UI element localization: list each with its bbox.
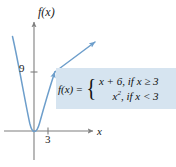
formula-case-1-condition: if x ≥ 3 — [128, 75, 159, 87]
formula-case-1: x + 6, if x ≥ 3 — [99, 74, 159, 89]
formula-cases: x + 6, if x ≥ 3 x2, if x < 3 — [99, 74, 159, 104]
piecewise-function-figure: f(x) x 9 3 f(x) = { x + 6, if x ≥ 3 x2, … — [0, 0, 176, 167]
piecewise-formula: f(x) = { x + 6, if x ≥ 3 x2, if x < 3 — [58, 70, 176, 107]
y-axis-label: f(x) — [38, 6, 55, 18]
formula-case-2-expression-tail: , — [121, 90, 124, 102]
formula-case-1-expression: x + 6, — [99, 75, 125, 87]
formula-case-2-condition: if x < 3 — [126, 90, 158, 102]
x-axis-tick-label-3: 3 — [45, 134, 51, 145]
formula-equals-sign: = — [76, 83, 82, 95]
formula-left-brace: { — [87, 78, 97, 98]
y-axis-tick-label-9: 9 — [19, 63, 25, 74]
formula-function-name: f(x) — [58, 83, 73, 95]
x-axis-label: x — [97, 126, 102, 137]
formula-case-2: x2, if x < 3 — [113, 89, 159, 104]
